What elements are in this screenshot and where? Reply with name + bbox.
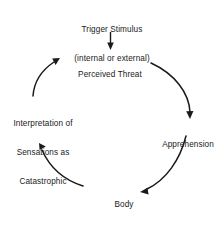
node-interpretation-line-3: Catastrophic bbox=[2, 177, 84, 187]
node-apprehension: Apprehension bbox=[152, 121, 224, 169]
node-interpretation-line-1: Interpretation of bbox=[2, 119, 84, 129]
node-trigger-stimulus-line-1: Trigger Stimulus bbox=[52, 25, 172, 35]
arrow-shaft bbox=[33, 62, 54, 96]
node-interpretation-of-sensations-as-catastrophic: Interpretation of Sensations as Catastro… bbox=[2, 100, 84, 206]
node-perceived-threat: Perceived Threat bbox=[62, 51, 158, 99]
anxiety-cycle-diagram: Trigger Stimulus (internal or external) … bbox=[0, 0, 224, 226]
node-body-sensations-line-1: Body bbox=[88, 200, 160, 210]
node-body-sensations: Body Sensations bbox=[88, 181, 160, 226]
node-perceived-threat-line-1: Perceived Threat bbox=[62, 70, 158, 80]
node-apprehension-line-1: Apprehension bbox=[152, 140, 224, 150]
node-interpretation-line-2: Sensations as bbox=[2, 148, 84, 158]
arrowhead bbox=[186, 111, 193, 119]
